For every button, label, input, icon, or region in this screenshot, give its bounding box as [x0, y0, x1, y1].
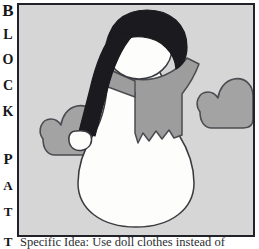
vertical-letter-3: C	[0, 79, 16, 93]
vertical-letter-2: O	[0, 53, 16, 67]
caption-leading-letter: T	[0, 237, 16, 248]
caption-text: Specific Idea: Use doll clothes instead …	[20, 237, 258, 249]
pattern-page: B L O C K P A T	[0, 0, 259, 249]
snowman-illustration	[19, 5, 253, 235]
vertical-letter-5: P	[0, 152, 16, 167]
cap-pompom	[69, 131, 92, 151]
vertical-letter-0: B	[0, 2, 16, 19]
vertical-letter-6: A	[0, 179, 16, 192]
vertical-letter-4: K	[0, 105, 16, 119]
vertical-letter-1: L	[0, 28, 16, 42]
heart-right-icon	[197, 79, 253, 128]
illustration-frame	[17, 3, 255, 237]
vertical-letter-7: T	[0, 205, 16, 218]
vertical-label-column: B L O C K P A T	[0, 0, 16, 249]
caption-row: T Specific Idea: Use doll clothes instea…	[0, 237, 259, 249]
